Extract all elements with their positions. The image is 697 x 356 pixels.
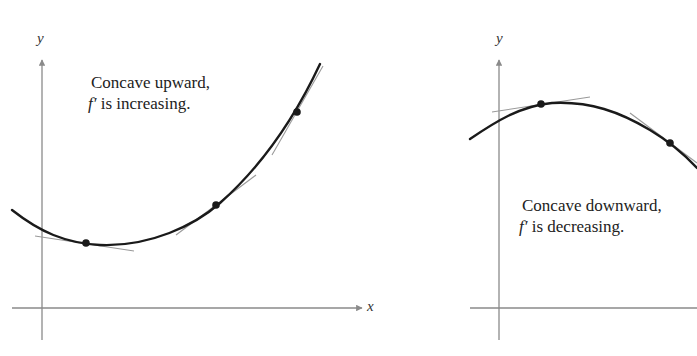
left-caption-line1: Concave upward, xyxy=(91,72,210,93)
right-point-1 xyxy=(537,100,545,108)
concavity-diagram xyxy=(0,0,697,356)
left-y-axis-label: y xyxy=(37,30,44,47)
right-caption-line1: Concave downward, xyxy=(522,195,662,216)
right-point-2 xyxy=(666,139,674,147)
right-caption: Concave downward, f′ is decreasing. xyxy=(522,195,662,237)
left-point-2 xyxy=(212,201,220,209)
left-point-1 xyxy=(82,239,90,247)
right-caption-line2-text: is decreasing. xyxy=(527,217,624,236)
left-caption-line2-text: is increasing. xyxy=(96,94,190,113)
right-y-axis-label: y xyxy=(496,30,503,47)
left-caption-line2: f′ is increasing. xyxy=(88,93,210,114)
left-x-axis-label: x xyxy=(367,298,374,315)
left-point-3 xyxy=(293,108,301,116)
right-concave-down-curve xyxy=(470,103,697,168)
left-caption: Concave upward, f′ is increasing. xyxy=(91,72,210,114)
right-caption-line2: f′ is decreasing. xyxy=(519,216,662,237)
